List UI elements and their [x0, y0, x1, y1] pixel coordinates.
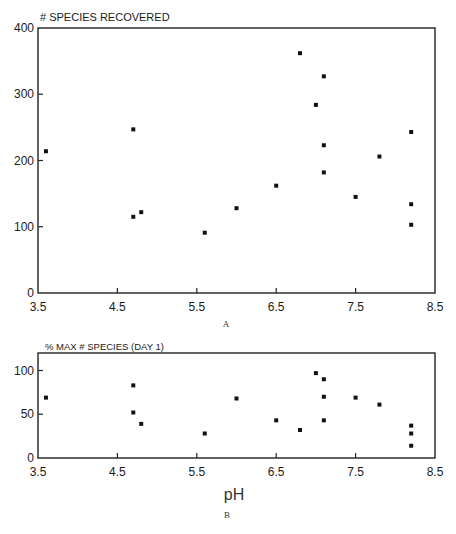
data-point: [409, 424, 413, 428]
data-point: [44, 396, 48, 400]
data-point: [131, 411, 135, 415]
data-point: [44, 149, 48, 153]
data-point: [354, 396, 358, 400]
y-tick-label: 50: [21, 407, 35, 421]
data-point: [322, 170, 326, 174]
data-point: [274, 418, 278, 422]
data-point: [377, 155, 381, 159]
x-tick-label: 6.5: [268, 300, 285, 314]
data-point: [322, 74, 326, 78]
figure: # SPECIES RECOVERED 0100200300400 3.54.5…: [0, 0, 456, 534]
data-point: [235, 206, 239, 210]
x-tick-label: 3.5: [30, 300, 47, 314]
y-tick-label: 100: [14, 220, 34, 234]
data-point: [322, 418, 326, 422]
x-tick-label: 5.5: [188, 300, 205, 314]
data-point: [139, 210, 143, 214]
y-tick-label: 100: [14, 364, 34, 378]
x-tick-label: 4.5: [109, 300, 126, 314]
data-point: [203, 231, 207, 235]
data-point: [274, 184, 278, 188]
data-point: [409, 202, 413, 206]
x-tick-label: 8.5: [427, 300, 444, 314]
x-tick-label: 5.5: [188, 465, 205, 479]
data-point: [322, 395, 326, 399]
data-point: [409, 130, 413, 134]
chart-b-panel-letter: B: [224, 510, 230, 520]
data-point: [203, 432, 207, 436]
data-point: [409, 223, 413, 227]
plot-frame: [38, 28, 435, 293]
y-tick-label: 300: [14, 87, 34, 101]
plot-frame: [38, 353, 435, 458]
data-point: [354, 195, 358, 199]
data-point: [322, 377, 326, 381]
chart-a-x-axis: 3.54.55.56.57.58.5: [30, 288, 444, 314]
y-tick-label: 0: [27, 286, 34, 300]
y-tick-label: 400: [14, 21, 34, 35]
chart-b-title: % MAX # SPECIES (DAY 1): [45, 341, 164, 352]
data-point: [298, 51, 302, 55]
chart-a-frame: [38, 28, 435, 293]
data-point: [409, 444, 413, 448]
y-tick-label: 200: [14, 154, 34, 168]
x-tick-label: 7.5: [347, 465, 364, 479]
data-point: [314, 371, 318, 375]
chart-b-x-axis: 3.54.55.56.57.58.5: [30, 453, 444, 479]
chart-b-frame: [38, 353, 435, 458]
y-tick-label: 0: [27, 451, 34, 465]
data-point: [409, 432, 413, 436]
x-tick-label: 4.5: [109, 465, 126, 479]
x-axis-label-ph: pH: [224, 486, 244, 503]
data-point: [235, 397, 239, 401]
x-tick-label: 7.5: [347, 300, 364, 314]
x-tick-label: 3.5: [30, 465, 47, 479]
data-point: [377, 403, 381, 407]
chart-a-panel-letter: A: [223, 319, 230, 329]
data-point: [322, 143, 326, 147]
data-point: [139, 422, 143, 426]
chart-a-species-recovered: # SPECIES RECOVERED 0100200300400 3.54.5…: [14, 11, 444, 329]
x-tick-label: 8.5: [427, 465, 444, 479]
data-point: [314, 103, 318, 107]
data-point: [131, 127, 135, 131]
x-tick-label: 6.5: [268, 465, 285, 479]
data-point: [298, 428, 302, 432]
data-point: [131, 383, 135, 387]
chart-a-data-points: [44, 51, 413, 235]
chart-b-data-points: [44, 371, 413, 448]
chart-a-title: # SPECIES RECOVERED: [40, 11, 170, 23]
chart-b-percent-max-species: % MAX # SPECIES (DAY 1) 050100 3.54.55.5…: [14, 341, 444, 520]
data-point: [131, 215, 135, 219]
